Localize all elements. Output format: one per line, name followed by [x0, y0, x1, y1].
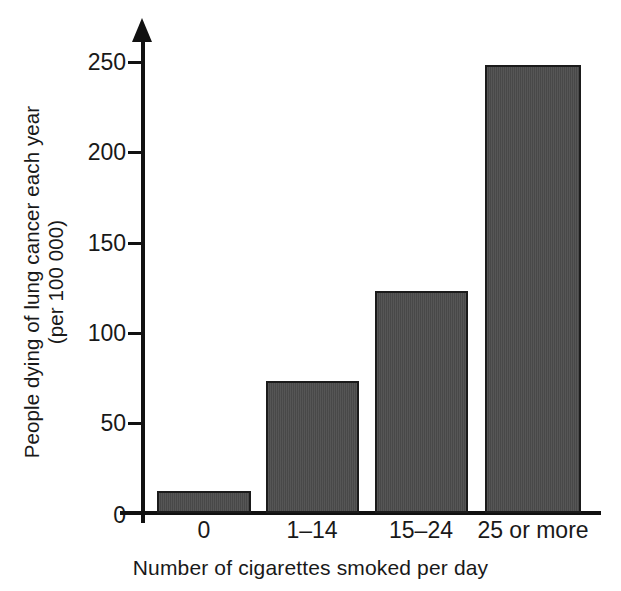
- x-tick-label-3: 25 or more: [463, 519, 603, 542]
- bar-0[interactable]: [157, 491, 251, 513]
- x-tick-label-0: 0: [157, 519, 251, 542]
- bar-3[interactable]: [485, 65, 581, 513]
- bar-2[interactable]: [375, 291, 468, 513]
- bar-chart: People dying of lung cancer each year (p…: [0, 0, 621, 591]
- x-tick-label-1: 1–14: [265, 519, 359, 542]
- x-axis-title: Number of cigarettes smoked per day: [0, 556, 621, 580]
- x-tick-label-2: 15–24: [374, 519, 468, 542]
- plot-area: [0, 0, 621, 591]
- bar-1[interactable]: [266, 381, 359, 513]
